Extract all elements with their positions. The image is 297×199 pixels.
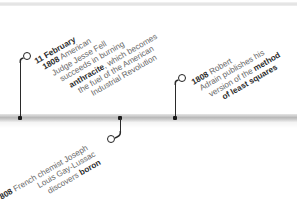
event-anchor-dot (18, 116, 22, 120)
event-stem (20, 62, 22, 118)
event-marker-circle-icon[interactable] (23, 52, 31, 60)
event-stem (175, 84, 177, 118)
event-marker-circle-icon[interactable] (107, 135, 115, 143)
event-note: 11 February 1808 American Judge Jesse Fe… (33, 0, 168, 115)
top-rule (0, 2, 297, 6)
event-note: 1808 French chemist Joseph Louis Gay-Lus… (0, 141, 103, 199)
event-marker-circle-icon[interactable] (178, 74, 186, 82)
timeline-bar-shadow (0, 122, 297, 128)
event-note: 1808 Robert Adrain publishes his version… (190, 34, 287, 112)
event-anchor-dot (173, 116, 177, 120)
timeline-bar (0, 114, 297, 122)
